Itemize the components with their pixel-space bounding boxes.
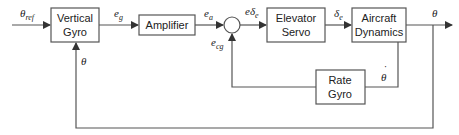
block-diagram: Vertical Gyro Amplifier Elevator Servo A… (0, 0, 459, 135)
aircraft-dynamics-label-1: Aircraft (362, 12, 397, 24)
summing-junction (224, 17, 240, 33)
signal-label-theta-out: θ (432, 7, 438, 19)
elevator-servo-label-2: Servo (282, 26, 311, 38)
vertical-gyro-label-1: Vertical (57, 12, 93, 24)
signal-label-eg: eg (114, 7, 123, 22)
signal-label-delta-e: δe (334, 7, 343, 22)
signal-label-e-delta-e: eδe (245, 5, 259, 20)
signal-label-ecg: ecg (211, 36, 223, 51)
rate-gyro-label-1: Rate (328, 74, 351, 86)
elevator-servo-label-1: Elevator (276, 12, 317, 24)
signal-label-theta-feedback: θ (81, 55, 87, 67)
signal-label-theta-ref: θref (20, 7, 36, 22)
amplifier-label: Amplifier (146, 19, 189, 31)
rate-gyro-label-2: Gyro (328, 88, 352, 100)
aircraft-dynamics-label-2: Dynamics (355, 26, 404, 38)
theta-dot-accent: ˙ (383, 63, 387, 75)
signal-label-ea: ea (204, 7, 213, 22)
vertical-gyro-label-2: Gyro (63, 26, 87, 38)
